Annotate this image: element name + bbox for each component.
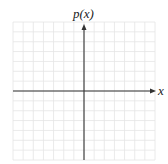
coordinate-grid [0,0,168,164]
y-axis-arrow-icon [82,24,87,30]
x-axis-label: x [158,83,164,99]
y-axis-label: p(x) [73,6,94,22]
